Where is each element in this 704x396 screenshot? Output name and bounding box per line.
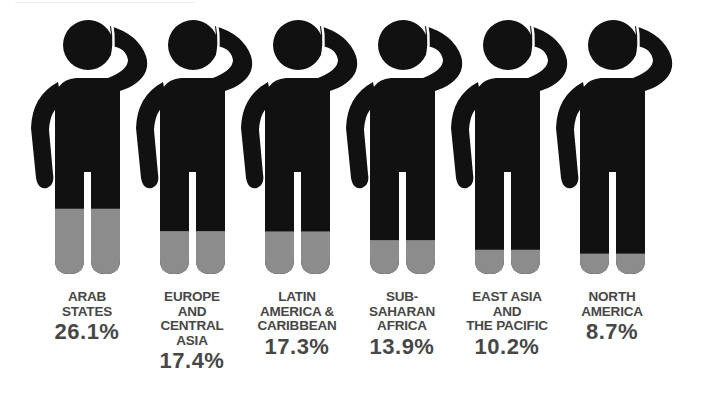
region-label: EUROPE AND CENTRAL ASIA 17.4% [137, 290, 247, 373]
region-name: EAST ASIA AND THE PACIFIC [452, 290, 562, 334]
region-name: NORTH AMERICA [557, 290, 667, 319]
human-figure-icon [133, 18, 253, 276]
region-percentage: 10.2% [452, 335, 562, 359]
figure-shape [553, 18, 673, 276]
region-label: SUB- SAHARAN AFRICA 13.9% [347, 290, 457, 359]
figure-shape [133, 18, 253, 276]
region-name: EUROPE AND CENTRAL ASIA [137, 290, 247, 348]
human-figure-icon [28, 18, 148, 276]
region-name: ARAB STATES [32, 290, 142, 319]
region-percentage: 8.7% [557, 320, 667, 344]
region-name: LATIN AMERICA & CARIBBEAN [242, 290, 352, 334]
figure-shape [238, 18, 358, 276]
cropped-header-line [15, 0, 195, 3]
region-label: EAST ASIA AND THE PACIFIC 10.2% [452, 290, 562, 359]
region-percentage: 17.4% [137, 349, 247, 373]
human-figure-icon [238, 18, 358, 276]
region-name: SUB- SAHARAN AFRICA [347, 290, 457, 334]
region-label: NORTH AMERICA 8.7% [557, 290, 667, 344]
region-percentage: 26.1% [32, 320, 142, 344]
region-percentage: 13.9% [347, 335, 457, 359]
human-figure-icon [448, 18, 568, 276]
region-label: LATIN AMERICA & CARIBBEAN 17.3% [242, 290, 352, 359]
figure-shape [448, 18, 568, 276]
human-figure-icon [343, 18, 463, 276]
figure-shape [28, 18, 148, 276]
figure-shape [343, 18, 463, 276]
human-figure-icon [553, 18, 673, 276]
region-percentage: 17.3% [242, 335, 352, 359]
region-label: ARAB STATES 26.1% [32, 290, 142, 344]
